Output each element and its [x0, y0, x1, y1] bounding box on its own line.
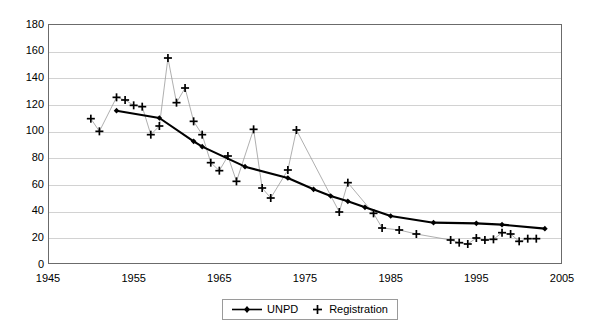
legend-entry-registration: Registration: [311, 304, 388, 315]
y-tick-label: 180: [4, 19, 44, 30]
plus-marker-icon: [311, 304, 324, 315]
diamond-marker-icon: [499, 222, 505, 228]
x-tick-label: 1975: [293, 272, 317, 284]
y-tick-label: 80: [4, 152, 44, 163]
series-main-line: [117, 111, 545, 229]
x-tick-label: 2005: [550, 272, 574, 284]
x-tick-label: 1995: [464, 272, 488, 284]
line-diamond-marker-icon: [232, 304, 262, 315]
legend-entry-unpd: UNPD: [232, 304, 298, 315]
series-connector-line: [91, 58, 536, 244]
chart-container: 020406080100120140160180 194519551965197…: [0, 0, 595, 328]
x-axis-tick-labels: 1945195519651975198519952005: [0, 272, 595, 288]
legend-label-unpd: UNPD: [267, 304, 298, 315]
series-layer: [48, 24, 562, 264]
diamond-marker-icon: [431, 220, 437, 226]
y-tick-label: 160: [4, 45, 44, 56]
diamond-marker-icon: [114, 108, 120, 114]
series-unpd: [114, 108, 548, 232]
series-registration: [87, 54, 540, 248]
y-tick-label: 100: [4, 125, 44, 136]
y-tick-label: 120: [4, 99, 44, 110]
x-tick-label: 1965: [207, 272, 231, 284]
y-tick-label: 140: [4, 72, 44, 83]
diamond-marker-icon: [388, 213, 394, 219]
x-tick-label: 1945: [36, 272, 60, 284]
diamond-marker-icon: [328, 193, 334, 199]
diamond-marker-icon: [542, 226, 548, 232]
y-tick-label: 60: [4, 179, 44, 190]
x-tick-label: 1985: [378, 272, 402, 284]
diamond-marker-icon: [345, 199, 351, 205]
legend-label-registration: Registration: [329, 304, 388, 315]
x-tick-label: 1955: [121, 272, 145, 284]
diamond-marker-icon: [474, 221, 480, 227]
y-tick-label: 20: [4, 232, 44, 243]
y-axis-tick-labels: 020406080100120140160180: [0, 24, 44, 264]
y-tick-label: 0: [4, 259, 44, 270]
chart-legend: UNPD Registration: [222, 299, 398, 320]
y-tick-label: 40: [4, 205, 44, 216]
